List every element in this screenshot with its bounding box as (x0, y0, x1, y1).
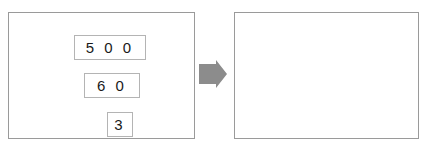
transition-arrow-right (199, 60, 227, 88)
digit-cell: 6 0 (97, 74, 127, 97)
digit-cell: 5 0 0 (86, 36, 134, 59)
after-panel: 5 6 0 3 (234, 12, 419, 139)
before-panel: 5 0 0 6 0 3 (8, 12, 195, 139)
digit-cell: 3 (114, 113, 125, 136)
figure-stage: 5 0 0 6 0 3 5 6 0 3 (0, 0, 425, 148)
digit-box-tens-before: 6 0 (84, 73, 140, 98)
digit-box-ones-before: 3 (107, 112, 133, 137)
digit-box-hundreds-before: 5 0 0 (74, 35, 146, 60)
